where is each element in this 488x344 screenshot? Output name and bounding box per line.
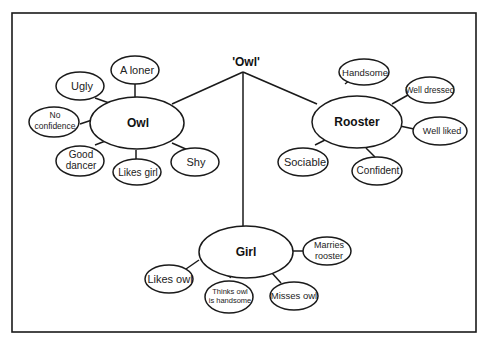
- diagram-title: 'Owl': [232, 55, 260, 69]
- trait-label: Well dressed: [406, 85, 455, 95]
- trait-label: rooster: [315, 251, 343, 261]
- trait-label: Marries: [314, 240, 345, 250]
- girl-cluster: Likes owl Thinks owl is handsome Misses …: [145, 226, 351, 313]
- trait-label: Sociable: [284, 156, 326, 168]
- trait-label: Likes owl: [147, 273, 192, 285]
- trait-label: Well liked: [423, 126, 461, 136]
- trait-label: Thinks owl: [212, 287, 248, 296]
- trait-label: Likes girl: [118, 167, 157, 178]
- trait-label: dancer: [66, 160, 97, 171]
- trait-label: confidence: [34, 121, 75, 131]
- trait-label: Handsome: [342, 67, 388, 78]
- trait-label: is handsome: [209, 296, 252, 305]
- trait-label: Confident: [357, 165, 400, 176]
- rooster-cluster: Handsome Well dressed Well liked Sociabl…: [278, 59, 467, 185]
- trait-label: Misses owl: [271, 290, 317, 301]
- girl-hub-label: Girl: [236, 245, 257, 259]
- rooster-hub-label: Rooster: [334, 115, 380, 129]
- owl-cluster: Ugly A loner No confidence Good dancer L…: [29, 56, 219, 185]
- trait-label: Shy: [187, 156, 206, 168]
- trait-label: Good: [69, 149, 93, 160]
- owl-hub-label: Owl: [127, 116, 149, 130]
- mind-map-diagram: 'Owl' Ugly A loner No confidence Good da…: [0, 0, 488, 344]
- trait-label: No: [50, 110, 61, 120]
- trait-label: A loner: [120, 64, 155, 76]
- trait-label: Ugly: [71, 80, 94, 92]
